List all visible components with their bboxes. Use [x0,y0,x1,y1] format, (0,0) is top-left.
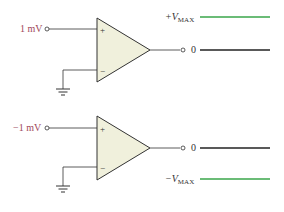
comparator-diagram: 1 mV + − 0 +VMAX −1 mV [0,0,284,212]
input-voltage-label: 1 mV [20,23,43,34]
plus-sign: + [100,25,105,35]
circuit-bottom: −1 mV + − 0 −VMAX [13,116,270,192]
plus-sign: + [100,124,105,134]
output-terminal-icon [181,48,185,52]
rail-label: +VMAX [165,11,194,24]
output-terminal-icon [181,146,185,150]
output-zero-label: 0 [191,142,196,153]
ground-icon [56,186,70,192]
minus-sign: − [100,66,105,76]
input-terminal-icon [45,126,49,130]
inverting-input-wire [63,167,97,186]
rail-label-sub: MAX [178,16,194,24]
input-voltage-label: −1 mV [13,122,42,133]
rail-label-sub: MAX [178,178,194,186]
input-terminal-icon [45,27,49,31]
inverting-input-wire [63,70,97,89]
circuit-top: 1 mV + − 0 +VMAX [20,11,270,95]
rail-label: −VMAX [165,173,194,186]
minus-sign: − [100,163,105,173]
output-zero-label: 0 [191,44,196,55]
ground-icon [56,89,70,95]
